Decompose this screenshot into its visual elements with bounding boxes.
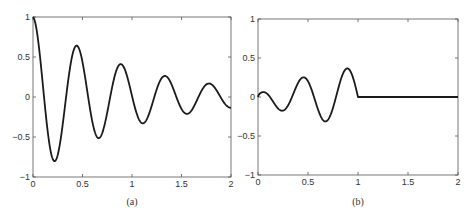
x-tick-label: 1 — [355, 177, 360, 187]
y-tick-label: 0.5 — [242, 53, 255, 63]
panel-a-chart: 00.511.52−1−0.500.51(a) — [12, 12, 233, 208]
y-tick-label: −0.5 — [237, 131, 255, 141]
x-tick-label: 1 — [129, 179, 134, 189]
x-tick-label: 0.5 — [76, 179, 89, 189]
panel-caption: (b) — [352, 196, 364, 208]
x-tick-label: 0 — [30, 179, 35, 189]
panel-caption: (a) — [126, 196, 137, 208]
y-tick-label: −0.5 — [12, 132, 30, 142]
data-line — [258, 68, 458, 121]
y-tick-label: 0.5 — [17, 52, 30, 62]
x-tick-label: 1.5 — [175, 179, 188, 189]
y-tick-label: −1 — [20, 172, 30, 182]
figure: 00.511.52−1−0.500.51(a) 00.511.52−1−0.50… — [0, 0, 471, 212]
panel-b-chart: 00.511.52−1−0.500.51(b) — [237, 14, 460, 208]
y-tick-label: 0 — [25, 92, 30, 102]
y-tick-label: 1 — [25, 12, 30, 22]
x-tick-label: 1.5 — [402, 177, 415, 187]
data-line — [33, 17, 231, 161]
x-tick-label: 0.5 — [302, 177, 315, 187]
x-tick-label: 2 — [455, 177, 460, 187]
x-tick-label: 2 — [228, 179, 233, 189]
y-tick-label: −1 — [245, 170, 255, 180]
x-tick-label: 0 — [255, 177, 260, 187]
y-tick-label: 1 — [250, 14, 255, 24]
y-tick-label: 0 — [250, 92, 255, 102]
